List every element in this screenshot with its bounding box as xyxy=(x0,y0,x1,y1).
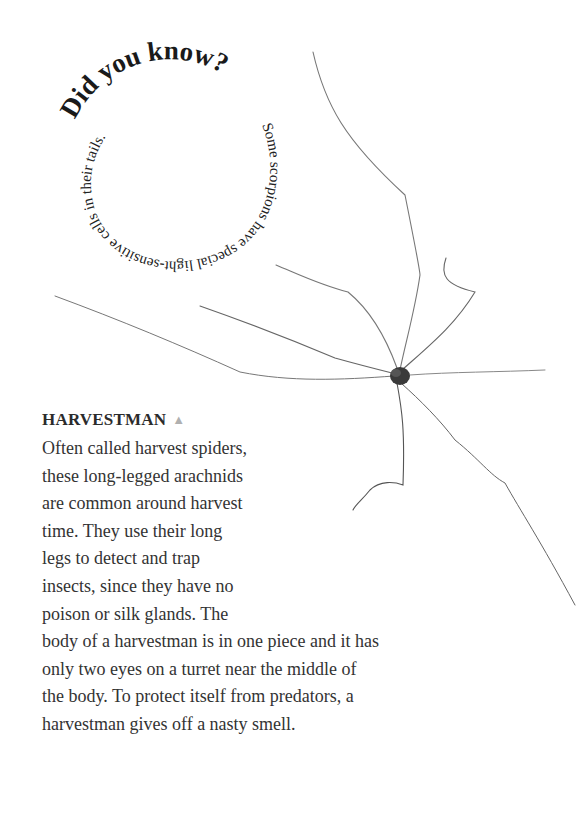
body-line: legs to detect and trap xyxy=(42,545,562,573)
body-line: time. They use their long xyxy=(42,518,562,546)
triangle-pointer-icon: ▲ xyxy=(172,412,185,427)
body-line: poison or silk glands. The xyxy=(42,601,562,629)
article-body: Often called harvest spiders, these long… xyxy=(42,435,562,739)
body-line: only two eyes on a turret near the middl… xyxy=(42,656,562,684)
body-line: the body. To protect itself from predato… xyxy=(42,683,562,711)
article-heading: HARVESTMAN▲ xyxy=(42,410,185,430)
heading-text: HARVESTMAN xyxy=(42,410,166,429)
body-line: body of a harvestman is in one piece and… xyxy=(42,628,562,656)
callout-title: Did you know? xyxy=(54,35,234,123)
body-line: are common around harvest xyxy=(42,490,562,518)
page: Did you know? Some scorpions have specia… xyxy=(0,0,581,832)
body-line: Often called harvest spiders, xyxy=(42,435,562,463)
svg-text:Some scorpions have special li: Some scorpions have special light-sensit… xyxy=(78,121,284,275)
body-line: harvestman gives off a nasty smell. xyxy=(42,711,562,739)
body-line: insects, since they have no xyxy=(42,573,562,601)
body-line: these long-legged arachnids xyxy=(42,463,562,491)
callout-text: Some scorpions have special light-sensit… xyxy=(78,121,284,275)
did-you-know-spiral: Did you know? Some scorpions have specia… xyxy=(40,30,320,280)
svg-text:Did you know?: Did you know? xyxy=(54,35,234,123)
